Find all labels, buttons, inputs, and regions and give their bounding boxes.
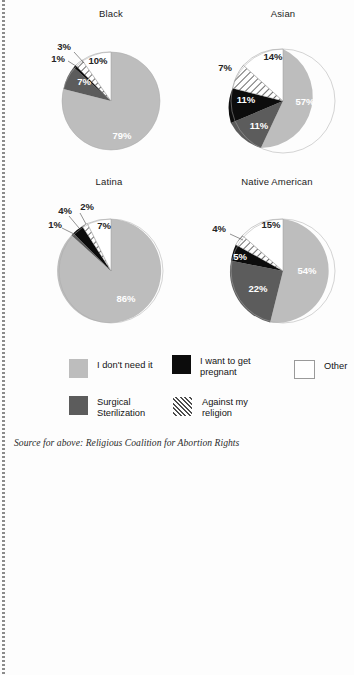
- pie-chart-native-american: Native American: [210, 176, 344, 334]
- source-caption: Source for above: Religious Coalition fo…: [14, 437, 239, 448]
- hatch-swatch-icon: [172, 396, 193, 417]
- pie-chart-black: Black: [52, 8, 170, 163]
- chart-legend: I don't need it I want to get pregnant O…: [0, 352, 354, 426]
- chart-title-black: Black: [52, 8, 170, 19]
- slice-value-surgical: 11%: [250, 120, 269, 131]
- legend-item-other[interactable]: Other: [294, 360, 347, 379]
- slice-value-pregnant: 11%: [237, 94, 256, 105]
- leader-line-religion: [80, 213, 86, 224]
- slice-value-pregnant: 5%: [233, 251, 247, 262]
- slice-value-religion: 4%: [212, 223, 226, 234]
- leader-line-religion: [74, 52, 84, 63]
- white-swatch-icon: [294, 360, 315, 379]
- black-swatch-icon: [172, 355, 191, 374]
- chart-title-native-american: Native American: [210, 176, 344, 187]
- slice-value-dont-need-it: 57%: [295, 96, 315, 107]
- chart-title-latina: Latina: [48, 176, 170, 187]
- legend-item-surgical-sterilization[interactable]: Surgical Sterilization: [69, 396, 145, 419]
- slice-value-other: 15%: [261, 219, 281, 230]
- legend-label-surgical-sterilization: Surgical Sterilization: [97, 396, 145, 419]
- slice-value-other: 7%: [97, 220, 111, 231]
- pie-svg-asian: 57% 11% 11% 7% 14%: [222, 22, 344, 172]
- dark-gray-swatch-icon: [69, 396, 88, 415]
- pie-chart-latina: Latina: [48, 176, 170, 334]
- slice-value-other: 10%: [88, 55, 108, 66]
- slice-value-surgical: 7%: [77, 76, 91, 87]
- legend-label-want-pregnant: I want to get pregnant: [200, 355, 251, 378]
- chart-title-asian: Asian: [222, 8, 344, 19]
- slice-value-religion: 3%: [57, 41, 71, 52]
- slice-value-dont-need-it: 79%: [112, 130, 132, 141]
- legend-item-against-religion[interactable]: Against my religion: [172, 396, 248, 419]
- light-gray-swatch-icon: [69, 359, 88, 378]
- leader-line-sterilization: [62, 228, 74, 234]
- legend-label-dont-need-it: I don't need it: [97, 359, 153, 371]
- pie-svg-native-american: 54% 22% 5% 4% 15%: [210, 190, 344, 342]
- pie-chart-asian: Asian 57%: [222, 8, 344, 163]
- slice-value-sterilization: 1%: [48, 219, 62, 230]
- pie-chart-grid: Black: [0, 0, 354, 340]
- legend-item-want-pregnant[interactable]: I want to get pregnant: [172, 355, 251, 378]
- slice-value-pregnant: 1%: [51, 53, 65, 64]
- leader-line-pregnant: [69, 216, 79, 228]
- slice-value-other: 14%: [263, 51, 283, 62]
- slice-value-dont-need-it: 86%: [116, 293, 136, 304]
- slice-value-religion: 2%: [80, 201, 94, 212]
- slice-value-pregnant: 4%: [58, 205, 72, 216]
- slice-value-surgical: 22%: [248, 283, 268, 294]
- pie-svg-latina: 86% 1% 4% 2% 7%: [48, 190, 170, 342]
- legend-item-dont-need-it[interactable]: I don't need it: [69, 359, 153, 378]
- legend-label-other: Other: [324, 360, 347, 372]
- slice-value-dont-need-it: 54%: [297, 265, 317, 276]
- page-canvas: Black: [0, 0, 354, 675]
- pie-svg-black: 79% 7% 3% 1% 10%: [52, 22, 170, 172]
- slice-value-religion: 7%: [218, 62, 232, 73]
- legend-label-against-religion: Against my religion: [202, 396, 248, 419]
